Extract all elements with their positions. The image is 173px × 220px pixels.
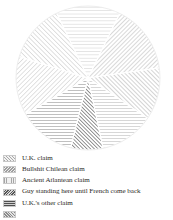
legend-label-uk-claim: U.K. claim (22, 155, 53, 163)
legend-label-uk-other-claim: U.K.'s other claim (22, 200, 73, 208)
antarctica-claims-figure: U.K. claim Bullshit Chilean claim Ancien… (0, 0, 173, 220)
legend-item-guy-standing: Guy standing here until French come back (0, 187, 173, 198)
swatch-clipped-row (3, 211, 16, 218)
legend: U.K. claim Bullshit Chilean claim Ancien… (0, 153, 173, 220)
legend-item-uk-other-claim: U.K.'s other claim (0, 198, 173, 209)
claims-map-svg (0, 0, 173, 152)
legend-item-uk-claim: U.K. claim (0, 153, 173, 164)
swatch-uk-claim (3, 155, 16, 162)
legend-label-chilean-claim: Bullshit Chilean claim (22, 166, 85, 174)
legend-item-chilean-claim: Bullshit Chilean claim (0, 164, 173, 175)
claim-wedges (16, 3, 160, 150)
legend-label-atlantean-claim: Ancient Atlantean claim (22, 177, 90, 185)
legend-item-clipped (0, 209, 173, 220)
claims-map (0, 0, 173, 152)
legend-label-guy-standing: Guy standing here until French come back (22, 188, 141, 196)
swatch-uk-other-claim (3, 200, 16, 207)
legend-item-atlantean-claim: Ancient Atlantean claim (0, 175, 173, 186)
swatch-atlantean-claim (3, 177, 16, 184)
swatch-chilean-claim (3, 166, 16, 173)
swatch-guy-standing (3, 189, 16, 196)
